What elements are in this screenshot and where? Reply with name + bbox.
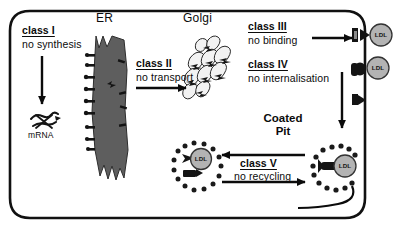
- receptor-middle: [351, 63, 366, 77]
- ldl-particle-pit: LDL: [334, 155, 356, 177]
- class-v-title: class V: [240, 157, 277, 169]
- class-v-desc: no recycling: [234, 170, 291, 182]
- class-i-title: class I: [22, 24, 55, 36]
- coated-pit-label-line2: Pit: [248, 125, 318, 138]
- golgi-apparatus-shape: [183, 36, 231, 99]
- ldl-particle-middle: LDL: [367, 57, 389, 79]
- ldl-top-label: LDL: [375, 31, 387, 38]
- class-iii-desc: no binding: [248, 34, 297, 46]
- ldl-particle-endosome: LDL: [191, 149, 212, 170]
- class-iv-title: class IV: [248, 58, 288, 70]
- endoplasmic-reticulum-shape: [84, 36, 128, 180]
- mrna-glyph: [31, 113, 61, 128]
- ldl-particle-top: LDL: [370, 24, 392, 46]
- ldl-endosome-label: LDL: [195, 155, 207, 162]
- ldl-pit-label: LDL: [339, 162, 351, 169]
- mrna-label: mRNA: [28, 130, 53, 140]
- class-i-desc: no synthesis: [22, 38, 82, 50]
- class-ii-title: class II: [136, 57, 172, 69]
- class-ii-desc: no transport: [136, 71, 193, 83]
- diagram-svg: LDL LDL: [0, 0, 408, 229]
- coated-pit-label-line1: Coated: [248, 112, 318, 125]
- class-iii-title: class III: [248, 20, 287, 32]
- figure-canvas: LDL LDL: [0, 0, 408, 229]
- receptor-top: [352, 28, 370, 42]
- class-iv-desc: no internalisation: [248, 72, 329, 84]
- ldl-middle-label: LDL: [372, 64, 384, 71]
- golgi-label: Golgi: [183, 12, 212, 25]
- er-label: ER: [96, 12, 113, 25]
